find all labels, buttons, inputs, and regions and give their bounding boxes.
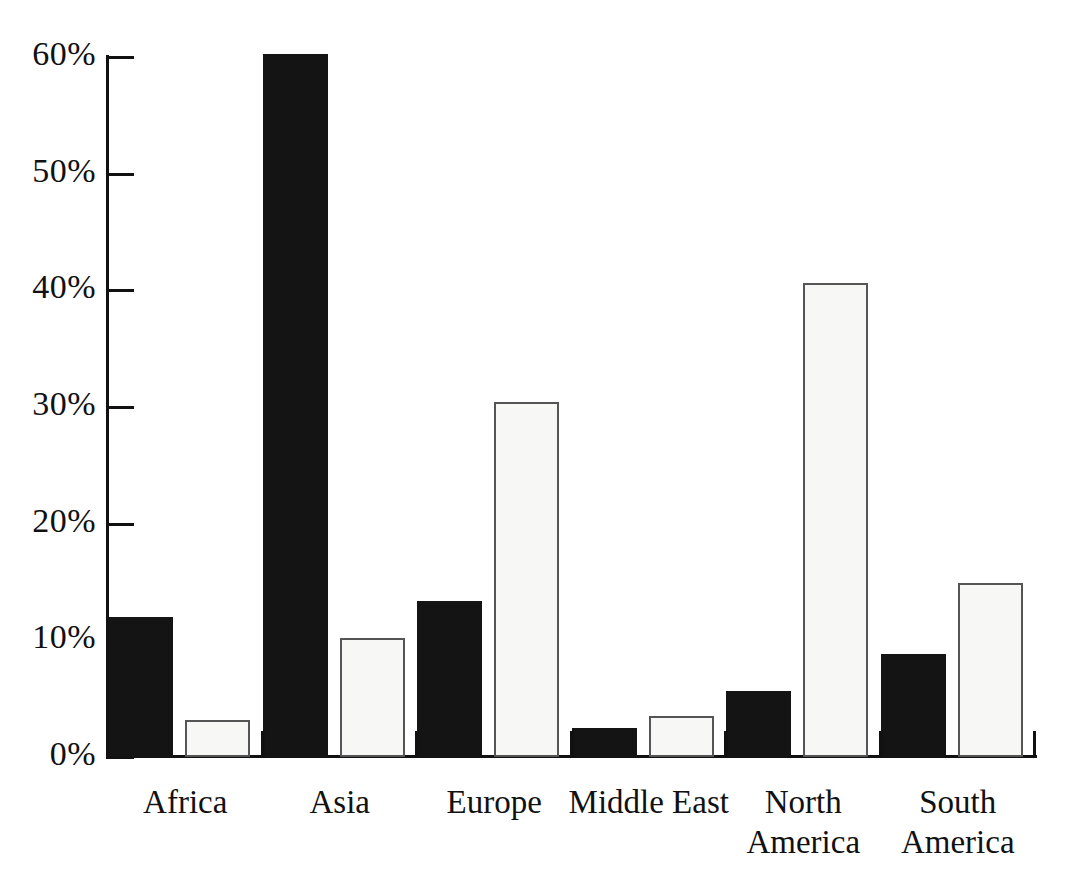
bar-middle-east-series-1: [572, 728, 637, 757]
x-axis-tick: [724, 731, 728, 757]
x-axis-tick: [570, 731, 574, 757]
bar-africa-series-1: [108, 617, 173, 757]
bar-south-america-series-1: [881, 654, 946, 757]
bar-asia-series-1: [263, 54, 328, 758]
y-axis-tick-label: 30%: [0, 387, 96, 421]
bar-north-america-series-1: [726, 691, 791, 758]
y-axis-tick-label: 20%: [0, 504, 96, 538]
bar-middle-east-series-2: [649, 716, 714, 757]
bar-africa-series-2: [185, 720, 250, 757]
y-axis-tick-label: 0%: [0, 737, 96, 771]
bar-europe-series-2: [494, 402, 559, 757]
y-axis-tick-label: 10%: [0, 620, 96, 654]
bar-south-america-series-2: [958, 583, 1023, 757]
bar-europe-series-1: [417, 601, 482, 757]
y-axis-tick-label: 60%: [0, 37, 96, 71]
y-axis-tick-label: 40%: [0, 270, 96, 304]
bar-north-america-series-2: [803, 283, 868, 757]
bar-asia-series-2: [340, 638, 405, 757]
x-axis-category-label: South America: [861, 782, 1056, 863]
y-axis-tick-label: 50%: [0, 154, 96, 188]
bar-chart: 60%50%40%30%20%10%0% AfricaAsiaEuropeMid…: [0, 0, 1092, 875]
x-axis-tick: [415, 731, 419, 757]
chart-title: [0, 21, 1, 22]
x-axis-tick: [879, 731, 883, 757]
x-axis-tick: [261, 731, 265, 757]
plot-area: [108, 57, 1035, 757]
